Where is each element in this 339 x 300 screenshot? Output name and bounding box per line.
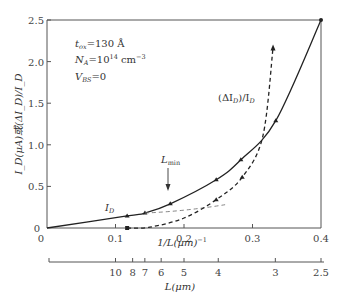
lmin-annotation: Lmin [160,154,180,191]
y-tick-label: 1.5 [28,98,44,109]
delta-id-series-label: (ΔID)/ID [218,92,256,105]
y-tick-label: 0.5 [28,181,44,192]
secondary-x-axis: 108765432.5 [49,258,329,278]
arrow-up-icon [271,44,276,50]
y-axis-ticks: 00.51.01.52.02.5 [28,15,51,234]
tox-annotation: tox=130 Å [75,38,125,51]
x2-tick-label: 8 [129,267,135,278]
arrow-down-icon [166,184,171,191]
x2-tick-label: 3 [272,267,278,278]
vbs-annotation: VBS=0 [75,71,106,84]
id-curve [47,20,321,228]
na-annotation: NA=1014 cm−3 [74,53,146,67]
delta-id-curve [127,47,273,228]
x-axis-label: 1/L(μm)−1 [157,236,207,248]
x-tick-label: 0.3 [245,233,261,244]
chart: 00.51.01.52.02.5 00.10.20.30.4 108765432… [0,0,339,300]
x2-tick-label: 2.5 [313,267,329,278]
parameter-annotations: tox=130 Å NA=1014 cm−3 VBS=0 [74,38,146,84]
square-marker-icon [125,226,129,230]
x2-tick-label: 6 [158,267,164,278]
y-tick-label: 1.0 [28,140,44,151]
x-tick-label: 0.1 [108,233,124,244]
x2-axis-label: L(μm) [164,281,196,292]
lmin-label: Lmin [160,154,180,167]
y-tick-label: 2.5 [28,15,44,26]
x2-tick-label: 4 [215,267,221,278]
series-group [47,18,323,230]
data-point [319,18,323,22]
x-tick-label: 0.4 [313,233,329,244]
x2-tick-label: 5 [181,267,187,278]
x2-tick-label: 10 [109,267,122,278]
triangle-marker-icon [240,175,245,179]
y-axis-label: I_D(μA)或(ΔI_D)/I_D [13,74,25,176]
y-tick-label: 2.0 [28,57,44,68]
x-tick-label: 0 [38,233,44,244]
x2-tick-label: 7 [142,267,148,278]
triangle-marker-icon [214,197,219,201]
id-series-label: ID [104,202,115,215]
